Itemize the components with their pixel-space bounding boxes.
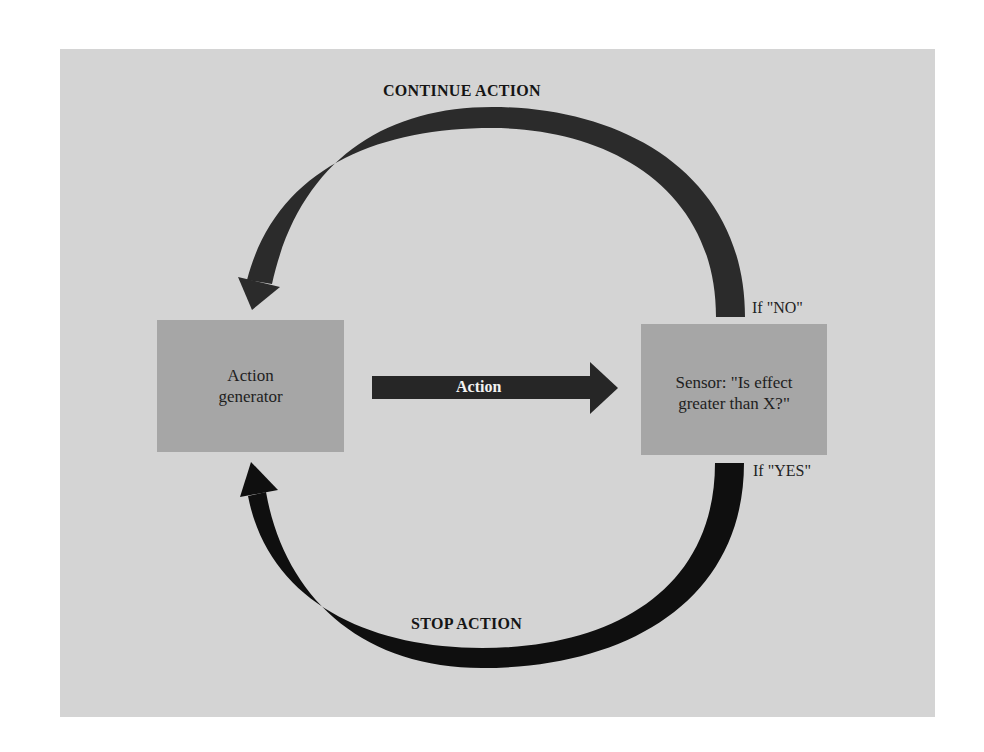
if-no-label: If "NO" bbox=[752, 299, 803, 317]
diagram-canvas bbox=[0, 0, 984, 752]
generator-label-line2: generator bbox=[218, 386, 282, 407]
stop-action-arrow bbox=[240, 462, 744, 668]
sensor-label-line1: Sensor: "Is effect bbox=[675, 372, 792, 393]
sensor-label-line2: greater than X?" bbox=[675, 393, 792, 414]
stop-action-label: STOP ACTION bbox=[411, 615, 522, 633]
action-arrowhead-icon bbox=[590, 362, 618, 414]
stop-arrowhead-icon bbox=[240, 462, 278, 497]
continue-arrowhead-icon bbox=[238, 277, 280, 310]
if-yes-label: If "YES" bbox=[753, 462, 811, 480]
action-generator-box: Action generator bbox=[157, 320, 344, 452]
continue-action-arrow bbox=[238, 107, 745, 317]
continue-action-label: CONTINUE ACTION bbox=[383, 82, 541, 100]
sensor-box: Sensor: "Is effect greater than X?" bbox=[641, 324, 827, 455]
generator-label-line1: Action bbox=[218, 365, 282, 386]
action-arrow-label: Action bbox=[456, 378, 501, 396]
